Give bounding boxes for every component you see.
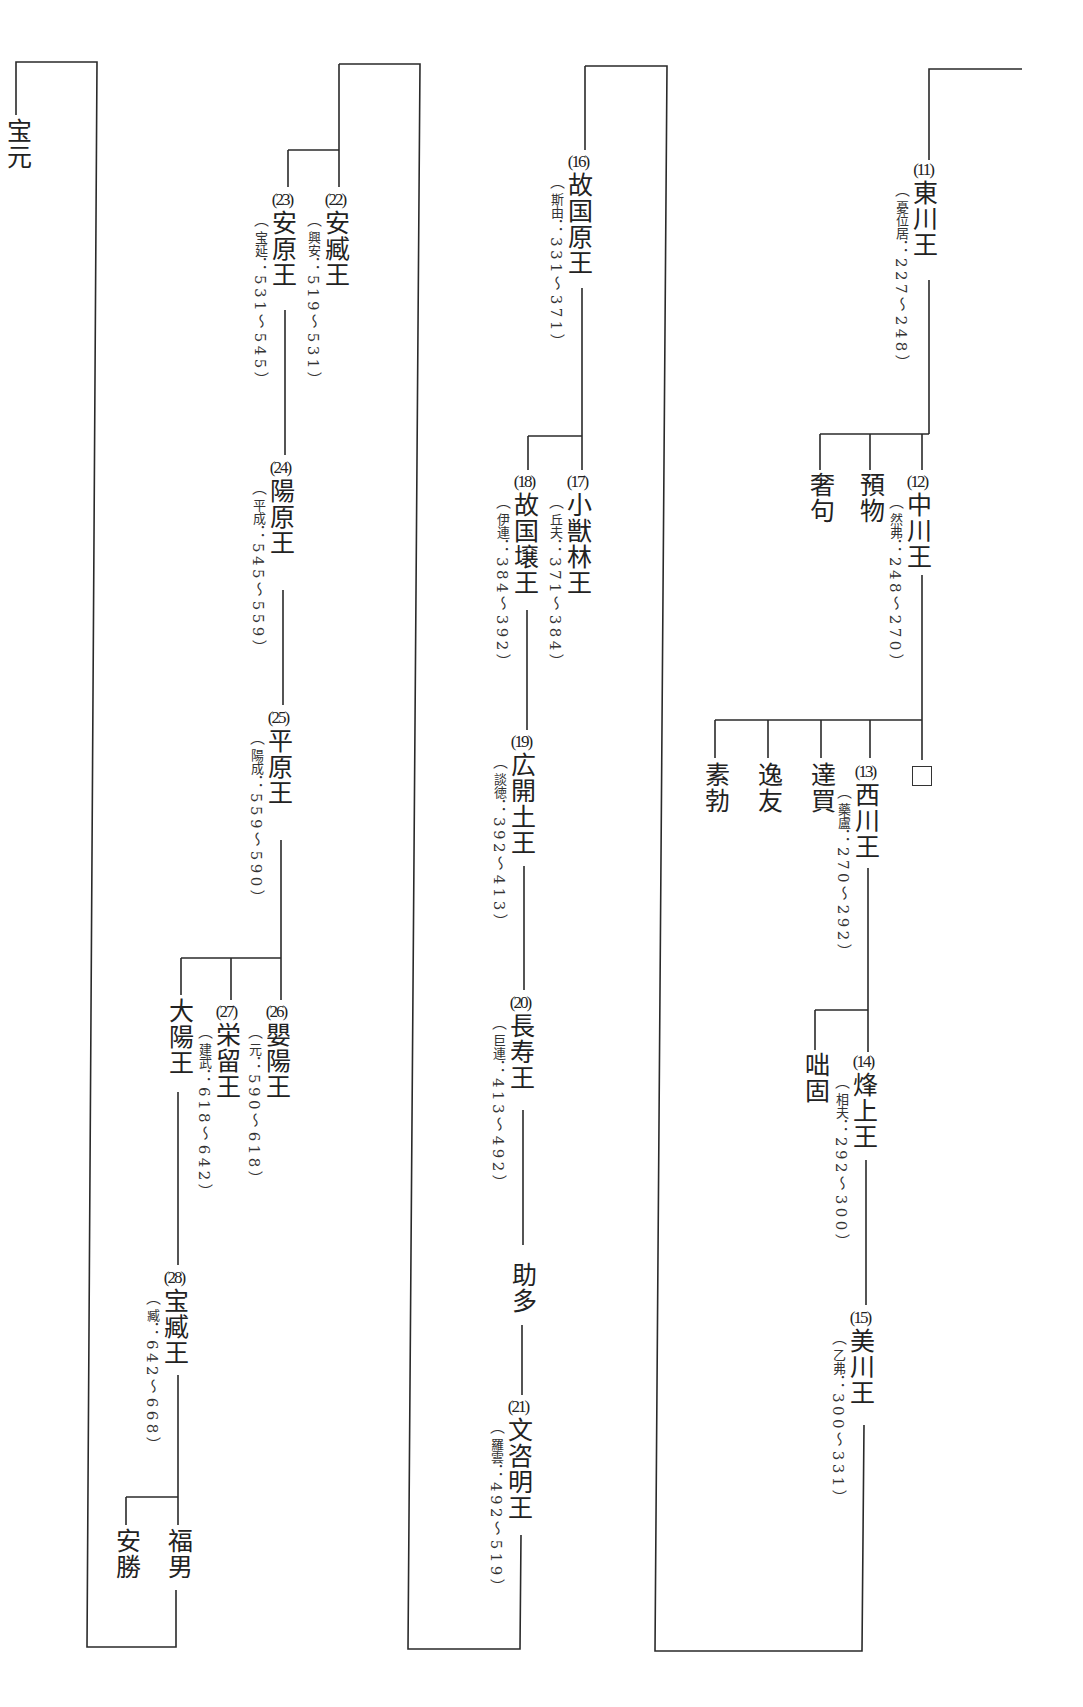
king-name: 嬰陽王: [263, 1022, 289, 1100]
person-name: 助多: [509, 1262, 535, 1314]
reign-info: （建武：618〜642）: [196, 1024, 212, 1202]
reign-number: (25): [268, 708, 288, 728]
king-17: (17) 小獣林王 （丘夫：371〜384）: [547, 472, 590, 672]
king-19: (19) 広開土王 （談徳：392〜413）: [491, 732, 534, 932]
king-name: 中川王: [904, 492, 930, 570]
person-tokko: 咄固: [802, 1052, 828, 1104]
king-12: (12) 中川王 （然弗：248〜270）: [887, 472, 930, 672]
king-name: 文咨明王: [505, 1417, 531, 1521]
person-name: 素勃: [702, 762, 728, 814]
reign-number: (14): [853, 1052, 873, 1072]
king-20: (20) 長寿王 （巨連：413〜492）: [490, 993, 533, 1193]
genealogy-diagram: 宝元 (11) 東川王 （憂位居：227〜248） 奢句 預物 (12) 中川王…: [0, 0, 1083, 1707]
reign-number: (23): [272, 190, 292, 210]
king-name: 安原王: [269, 210, 295, 288]
king-27: (27) 栄留王 （建武：618〜642）: [196, 1002, 239, 1202]
king-16: (16) 故国原王 （斯由：331〜371）: [548, 152, 591, 352]
person-fukuo: 福男: [165, 1528, 191, 1580]
king-name: 故国壌王: [511, 492, 537, 596]
person-name: 逸友: [755, 762, 781, 814]
king-18: (18) 故国壌王 （伊連：384〜392）: [494, 472, 537, 672]
person-name: 宝元: [4, 118, 30, 170]
king-13: (13) 西川王 （藥盧：270〜292）: [835, 762, 878, 962]
reign-number: (18): [514, 472, 534, 492]
reign-info: （然弗：248〜270）: [887, 494, 903, 672]
king-name: 小獣林王: [564, 492, 590, 596]
reign-number: (13): [855, 762, 875, 782]
reign-info: （陽成：559〜590）: [248, 730, 264, 908]
king-23: (23) 安原王 （宝延：531〜545）: [252, 190, 295, 390]
reign-info: （宝延：531〜545）: [252, 212, 268, 390]
reign-info: （談徳：392〜413）: [491, 754, 507, 932]
reign-number: (12): [907, 472, 927, 492]
reign-info: （巨連：413〜492）: [490, 1015, 506, 1193]
person-shaku: 奢句: [807, 472, 833, 524]
unknown-person-box: [912, 766, 932, 786]
person-unknown: [912, 766, 932, 786]
reign-number: (26): [266, 1002, 286, 1022]
king-15: (15) 美川王 （乙弗：300〜331）: [830, 1308, 873, 1508]
person-name: 咄固: [802, 1052, 828, 1104]
king-name: 烽上王: [850, 1072, 876, 1150]
person-name: 預物: [857, 472, 883, 524]
person-yobutsu: 預物: [857, 472, 883, 524]
reign-number: (24): [270, 458, 290, 478]
king-name: 陽原王: [267, 478, 293, 556]
reign-number: (21): [508, 1397, 528, 1417]
king-11: (11) 東川王 （憂位居：227〜248）: [893, 160, 936, 373]
king-22: (22) 安臧王 （興安：519〜531）: [305, 190, 348, 390]
reign-info: （丘夫：371〜384）: [547, 494, 563, 672]
king-name: 栄留王: [213, 1022, 239, 1100]
reign-info: （憂位居：227〜248）: [893, 182, 909, 373]
king-24: (24) 陽原王 （平成：545〜559）: [250, 458, 293, 658]
reign-info: （斯由：331〜371）: [548, 174, 564, 352]
reign-number: (22): [325, 190, 345, 210]
king-name: 故国原王: [565, 172, 591, 276]
king-28: (28) 宝臧王 （臧：642〜668）: [144, 1268, 187, 1455]
king-name: 美川王: [847, 1328, 873, 1406]
king-name: 長寿王: [507, 1013, 533, 1091]
reign-number: (17): [567, 472, 587, 492]
person-tatsubai: 達買: [808, 762, 834, 814]
person-name: 安勝: [113, 1528, 139, 1580]
king-25: (25) 平原王 （陽成：559〜590）: [248, 708, 291, 908]
person-hogen: 宝元: [4, 118, 30, 170]
person-name: 大陽王: [166, 998, 192, 1076]
person-sobotsu: 素勃: [702, 762, 728, 814]
person-itsuyu: 逸友: [755, 762, 781, 814]
king-14: (14) 烽上王 （相夫：292〜300）: [833, 1052, 876, 1252]
reign-info: （乙弗：300〜331）: [830, 1330, 846, 1508]
person-name: 奢句: [807, 472, 833, 524]
king-26: (26) 嬰陽王 （元：590〜618）: [246, 1002, 289, 1189]
reign-number: (19): [511, 732, 531, 752]
reign-info: （羅雲：492〜519）: [488, 1419, 504, 1597]
reign-info: （興安：519〜531）: [305, 212, 321, 390]
king-21: (21) 文咨明王 （羅雲：492〜519）: [488, 1397, 531, 1597]
reign-info: （元：590〜618）: [246, 1024, 262, 1189]
reign-number: (16): [568, 152, 588, 172]
person-anshou: 安勝: [113, 1528, 139, 1580]
reign-number: (27): [216, 1002, 236, 1022]
person-name: 達買: [808, 762, 834, 814]
reign-info: （伊連：384〜392）: [494, 494, 510, 672]
king-name: 東川王: [910, 180, 936, 258]
reign-number: (15): [850, 1308, 870, 1328]
king-name: 西川王: [852, 782, 878, 860]
reign-info: （藥盧：270〜292）: [835, 784, 851, 962]
king-name: 宝臧王: [161, 1288, 187, 1366]
reign-info: （相夫：292〜300）: [833, 1074, 849, 1252]
reign-number: (20): [510, 993, 530, 1013]
person-taiyo: 大陽王: [166, 998, 192, 1076]
person-name: 福男: [165, 1528, 191, 1580]
king-name: 広開土王: [508, 752, 534, 856]
reign-number: (28): [164, 1268, 184, 1288]
reign-info: （臧：642〜668）: [144, 1290, 160, 1455]
king-name: 安臧王: [322, 210, 348, 288]
person-joda: 助多: [509, 1262, 535, 1314]
reign-info: （平成：545〜559）: [250, 480, 266, 658]
king-name: 平原王: [265, 728, 291, 806]
reign-number: (11): [913, 160, 933, 180]
